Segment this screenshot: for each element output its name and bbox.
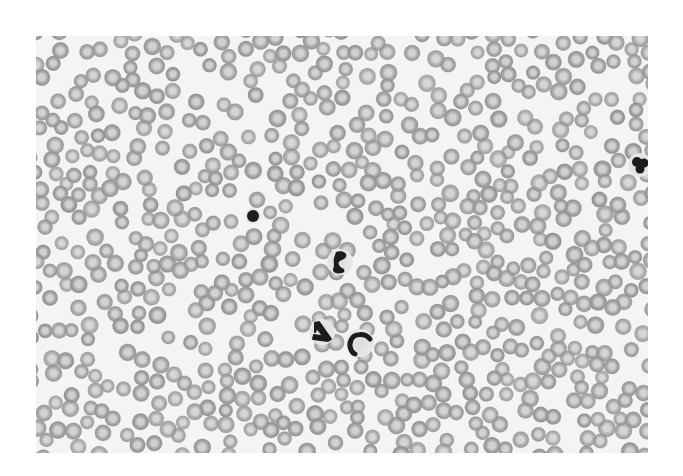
band-neutrophil-cell	[327, 249, 353, 275]
neutrophil-cell	[309, 319, 335, 345]
band-neutrophil-cell	[346, 329, 374, 357]
cells-layer	[36, 36, 648, 453]
blood-smear-micrograph: Grayscale light micrograph of a peripher…	[36, 36, 648, 453]
lymphocyte-cell	[245, 208, 261, 224]
red-blood-cells	[36, 36, 648, 453]
